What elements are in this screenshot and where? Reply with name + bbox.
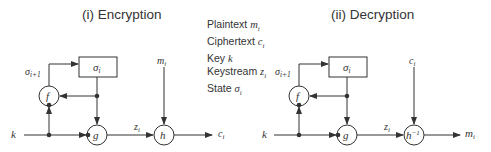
decryption-title: (ii) Decryption (331, 7, 414, 22)
encryption-dots (47, 94, 100, 138)
legend-plaintext: Plaintext mi (207, 18, 266, 35)
legend: Plaintext mi Ciphertext ci Key k Keystre… (207, 18, 266, 99)
key-label: k (11, 128, 17, 140)
encryption-diagram (24, 57, 212, 145)
legend-state: State σi (207, 82, 266, 99)
ciphertext-input-label: ci (409, 55, 415, 68)
state-label: σi (93, 61, 101, 75)
plaintext-output-label: mi (465, 127, 475, 141)
h-inverse-label: h−1 (406, 129, 420, 141)
legend-key: Key k (207, 52, 266, 65)
g-label: g (343, 129, 349, 141)
plaintext-label: mi (157, 55, 166, 68)
ciphertext-label: ci (218, 128, 224, 141)
feedback-label: σi+1 (275, 66, 291, 79)
key-label: k (262, 128, 268, 140)
f-label: f (46, 90, 51, 102)
decryption-diagram (274, 57, 460, 145)
feedback-arrow (49, 64, 78, 86)
keystream-label: zi (383, 121, 390, 134)
encryption-title: (i) Encryption (82, 7, 162, 22)
state-label: σi (343, 61, 351, 75)
feedback-label: σi+1 (25, 66, 41, 79)
f-label: f (296, 90, 301, 102)
legend-keystream: Keystream zi (207, 65, 266, 82)
decryption-dots (297, 94, 350, 138)
h-label: h (160, 129, 166, 141)
legend-ciphertext: Ciphertext ci (207, 35, 266, 52)
g-label: g (93, 129, 99, 141)
keystream-label: zi (133, 121, 140, 134)
